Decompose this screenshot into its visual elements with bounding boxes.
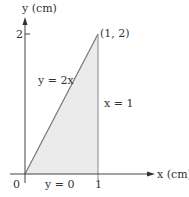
y-axis-arrow-icon [23, 17, 28, 25]
label-y-equals-2x: y = 2x [37, 74, 74, 87]
x-tick-label: 1 [95, 178, 102, 191]
x-axis-arrow-icon [147, 172, 155, 177]
y-axis-label: y (cm) [21, 2, 57, 15]
label-y-equals-0: y = 0 [44, 178, 74, 191]
region-diagram: y (cm) 2 (1, 2) y = 2x x = 1 0 y = 0 1 x… [0, 0, 189, 197]
label-x-equals-1: x = 1 [104, 97, 133, 110]
y-tick-label: 2 [16, 28, 23, 41]
x-axis-label: x (cm) [157, 168, 189, 181]
point-label: (1, 2) [100, 27, 130, 40]
origin-label: 0 [13, 178, 20, 191]
